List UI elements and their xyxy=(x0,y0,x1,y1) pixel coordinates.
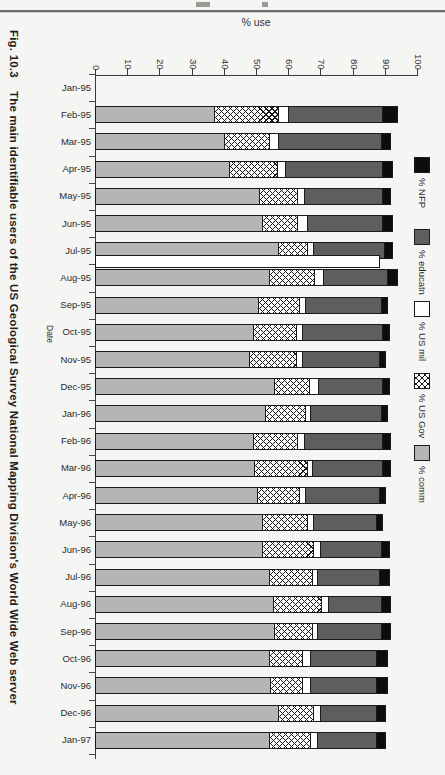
stacked-bar xyxy=(95,596,391,613)
category-axis-tick xyxy=(89,156,95,157)
stacked-bar xyxy=(95,188,391,205)
bar-segment-comm xyxy=(96,434,253,449)
category-axis-tick xyxy=(89,672,95,673)
bar-segment-gov xyxy=(249,352,295,367)
bar-segment-comm xyxy=(96,733,269,748)
value-tick-label: 50 xyxy=(249,38,263,70)
legend-label-mil: % US mil xyxy=(417,322,428,361)
stacked-bar xyxy=(95,161,393,178)
category-axis-tick xyxy=(89,210,95,211)
category-axis-tick xyxy=(89,74,95,75)
category-label: Aug-95 xyxy=(41,272,91,284)
bar-segment-comm xyxy=(96,651,269,666)
legend-label-gov: % US Gov xyxy=(417,394,428,438)
figure-number: Fig. 10.3 xyxy=(8,30,20,78)
stacked-bar xyxy=(95,732,386,749)
category-label: Jul-95 xyxy=(41,245,91,257)
stacked-bar xyxy=(95,705,386,722)
bar-segment-nfp xyxy=(384,243,392,258)
stacked-bar xyxy=(95,106,398,123)
bar-segment-nfp xyxy=(382,107,396,122)
category-label: Nov-95 xyxy=(41,354,91,366)
stacked-bar xyxy=(95,351,386,368)
bar-segment-nfp xyxy=(379,488,385,503)
bar-segment-educatn xyxy=(323,270,387,285)
bar-segment-educatn xyxy=(302,325,382,340)
bar-segment-mil xyxy=(269,134,279,149)
bar-segment-nfp xyxy=(381,542,389,557)
value-tick-label: 60 xyxy=(281,38,295,70)
bar-segment-educatn xyxy=(310,678,376,693)
bar-segment-nfp xyxy=(376,515,382,530)
bar-segment-nfp xyxy=(382,461,390,476)
bar-segment-comm xyxy=(96,597,273,612)
bar-segment-gov xyxy=(269,270,314,285)
category-label: Mar-95 xyxy=(41,136,91,148)
bar-segment-educatn xyxy=(317,570,379,585)
bar-segment-educatn xyxy=(320,706,376,721)
bar-segment-mil xyxy=(309,379,319,394)
bar-segment-nfp xyxy=(376,706,386,721)
bar-segment-educatn xyxy=(310,406,380,421)
legend-label-comm: % comm xyxy=(417,466,428,503)
bar-segment-comm xyxy=(96,162,229,177)
category-label: Jan-95 xyxy=(41,82,91,94)
bar-segment-comm xyxy=(96,624,274,639)
category-axis-tick xyxy=(89,645,95,646)
bar-segment-gov xyxy=(278,706,313,721)
category-label: Nov-96 xyxy=(41,680,91,692)
stacked-bar xyxy=(95,433,391,450)
category-label: Dec-96 xyxy=(41,707,91,719)
bar-segment-nfp xyxy=(381,597,391,612)
bar-segment-gov xyxy=(253,434,298,449)
value-tick-label: 20 xyxy=(152,38,166,70)
value-axis-title: % use xyxy=(216,16,296,28)
bar-segment-comm xyxy=(96,542,262,557)
category-label: Apr-95 xyxy=(41,163,91,175)
category-label: May-96 xyxy=(41,517,91,529)
bar-segment-gov xyxy=(274,624,312,639)
category-label: Aug-96 xyxy=(41,598,91,610)
category-label: Mar-96 xyxy=(41,462,91,474)
value-tick-label: 10 xyxy=(120,38,134,70)
bar-segment-educatn xyxy=(278,134,380,149)
bar-segment-comm xyxy=(96,325,253,340)
stacked-bar xyxy=(95,405,388,422)
bar-segment-comm xyxy=(96,406,265,421)
legend-swatch-comm xyxy=(414,445,430,461)
bar-segment-comm xyxy=(96,270,269,285)
bar-segment-gov xyxy=(274,379,309,394)
bar-segment-nfp xyxy=(382,379,388,394)
value-tick-label: 70 xyxy=(313,38,327,70)
bar-segment-mil xyxy=(277,162,285,177)
legend-label-nfp: % NFP xyxy=(417,178,428,208)
scanned-book-page: Fig. 10.3The main identifiable users of … xyxy=(0,0,445,775)
category-axis-tick xyxy=(89,183,95,184)
bar-segment-comm xyxy=(96,352,249,367)
bar-segment-gov xyxy=(259,189,297,204)
bar-segment-educatn xyxy=(313,515,375,530)
bar-segment-educatn xyxy=(304,434,382,449)
category-label: Dec-95 xyxy=(41,381,91,393)
bar-segment-comm xyxy=(96,678,270,693)
category-axis-tick xyxy=(89,319,95,320)
category-axis-tick xyxy=(89,400,95,401)
bar-segment-educatn xyxy=(312,461,382,476)
bar-segment-gov xyxy=(273,597,321,612)
bar-segment-nfp xyxy=(376,678,387,693)
stacked-bar xyxy=(95,541,390,558)
bar-segment-comm xyxy=(96,298,258,313)
category-label: May-95 xyxy=(41,190,91,202)
legend-swatch-nfp xyxy=(414,157,430,173)
category-axis-tick xyxy=(89,509,95,510)
bar-segment-gov xyxy=(262,216,297,231)
bar-segment-gov xyxy=(269,570,312,585)
category-axis-tick xyxy=(89,482,95,483)
bar-segment-gov xyxy=(269,651,303,666)
value-tick-label: 100 xyxy=(410,38,424,70)
stacked-bar xyxy=(95,215,393,232)
value-tick-label: 0 xyxy=(88,38,102,70)
category-label: Sep-95 xyxy=(41,299,91,311)
stacked-bar xyxy=(95,514,383,531)
bar-segment-mil xyxy=(297,216,307,231)
